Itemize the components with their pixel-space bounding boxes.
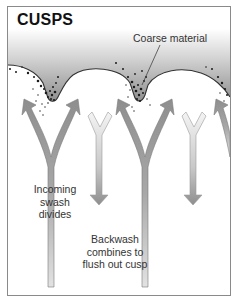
incoming-swash-line-3: divides: [22, 208, 88, 221]
incoming-swash-line-2: swash: [22, 196, 88, 209]
diagram-frame: CUSPS: [7, 6, 231, 296]
backwash-line-1: Backwash: [70, 233, 160, 246]
backwash-label: Backwash combines to flush out cusp: [70, 233, 160, 271]
backwash-line-3: flush out cusp: [70, 258, 160, 271]
incoming-swash-line-1: Incoming: [22, 183, 88, 196]
backwash-line-2: combines to: [70, 246, 160, 259]
incoming-swash-label: Incoming swash divides: [22, 183, 88, 221]
coarse-material-label: Coarse material: [133, 32, 231, 45]
